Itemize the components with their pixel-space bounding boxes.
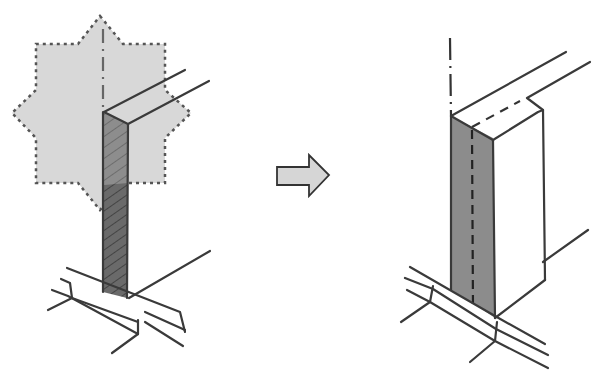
wall-right-edge bbox=[543, 110, 545, 280]
column-right-edge bbox=[127, 124, 128, 298]
before-panel bbox=[12, 16, 210, 353]
diagram-canvas bbox=[0, 0, 615, 388]
column-lower bbox=[103, 183, 128, 298]
beam-branch-down bbox=[112, 334, 138, 353]
highlight-star bbox=[12, 16, 191, 210]
beam-branch-left bbox=[401, 286, 433, 322]
after-panel bbox=[401, 38, 590, 368]
top-dashed-line bbox=[472, 101, 520, 127]
beam-line-4 bbox=[145, 312, 185, 330]
wall-top-edge-1 bbox=[451, 52, 566, 116]
upper-centerline bbox=[450, 38, 451, 116]
arrow-right-icon bbox=[277, 155, 329, 196]
wall-base-edge bbox=[495, 280, 545, 318]
wall-extension-line bbox=[543, 230, 588, 262]
wall-base-line bbox=[129, 251, 210, 298]
beam-branch-left bbox=[48, 298, 72, 310]
wall-top-edge-2 bbox=[493, 62, 590, 140]
